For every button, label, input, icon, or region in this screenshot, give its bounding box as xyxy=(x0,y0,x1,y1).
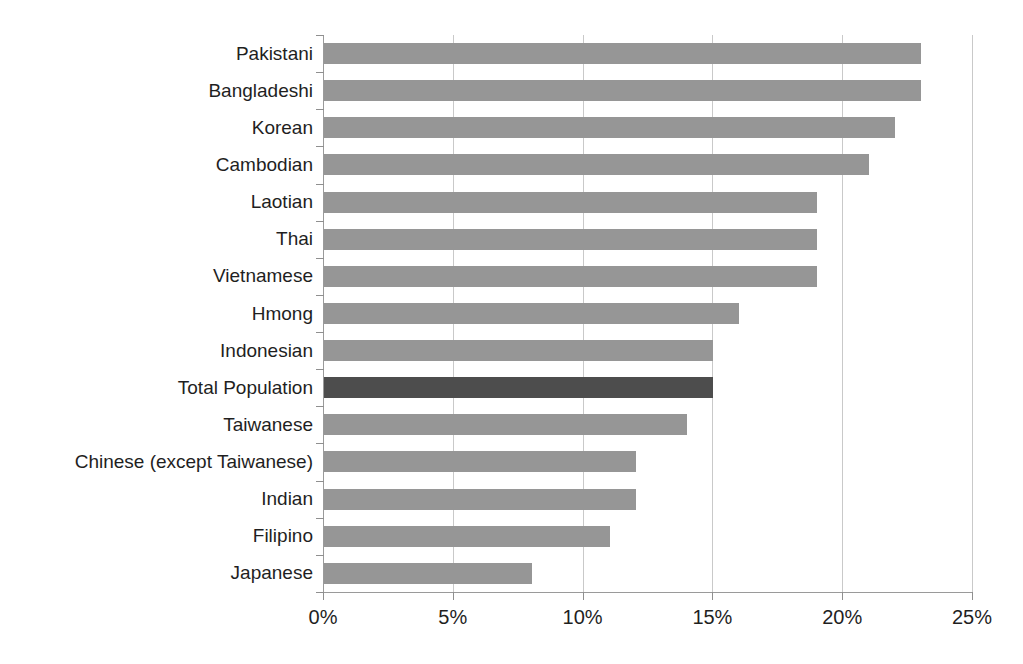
y-axis-label: Filipino xyxy=(3,526,313,545)
x-axis-label: 20% xyxy=(797,605,887,629)
bar-chart: Percent Uninsured in the United States P… xyxy=(0,0,1023,664)
y-axis-tick xyxy=(316,35,324,36)
y-axis-tick xyxy=(316,72,324,73)
x-axis-tick xyxy=(842,592,843,600)
y-axis-label: Japanese xyxy=(3,563,313,582)
bar xyxy=(324,229,817,250)
bar xyxy=(324,80,921,101)
gridline xyxy=(972,35,973,592)
y-axis-label: Cambodian xyxy=(3,155,313,174)
x-axis-tick xyxy=(712,592,713,600)
bar xyxy=(324,526,610,547)
bar xyxy=(324,266,817,287)
y-axis-tick xyxy=(316,332,324,333)
x-axis-tick xyxy=(583,592,584,600)
x-axis-labels: 0%5%10%15%20%25% xyxy=(0,605,1023,635)
bar xyxy=(324,563,532,584)
y-axis-label: Hmong xyxy=(3,304,313,323)
y-axis-label: Total Population xyxy=(3,378,313,397)
y-axis-tick xyxy=(316,184,324,185)
y-axis-label: Bangladeshi xyxy=(3,81,313,100)
x-axis-tick xyxy=(323,592,324,600)
bar xyxy=(324,154,869,175)
y-axis-tick xyxy=(316,369,324,370)
bar xyxy=(324,377,713,398)
y-axis-tick xyxy=(316,481,324,482)
y-axis-label: Pakistani xyxy=(3,44,313,63)
y-axis-tick xyxy=(316,258,324,259)
x-axis-line xyxy=(323,592,973,593)
y-axis-tick xyxy=(316,109,324,110)
x-axis-tick xyxy=(972,592,973,600)
y-axis-label: Thai xyxy=(3,229,313,248)
y-axis-label: Laotian xyxy=(3,192,313,211)
y-axis-tick xyxy=(316,518,324,519)
bar xyxy=(324,414,687,435)
y-axis-tick xyxy=(316,406,324,407)
x-axis-label: 25% xyxy=(927,605,1017,629)
y-axis-label: Taiwanese xyxy=(3,415,313,434)
bar xyxy=(324,451,636,472)
y-axis-label: Indonesian xyxy=(3,341,313,360)
bar xyxy=(324,117,895,138)
bar xyxy=(324,489,636,510)
x-axis-label: 0% xyxy=(278,605,368,629)
y-axis-labels: PakistaniBangladeshiKoreanCambodianLaoti… xyxy=(0,35,313,592)
x-axis-tick xyxy=(453,592,454,600)
y-axis-tick xyxy=(316,555,324,556)
y-axis-tick xyxy=(316,295,324,296)
y-axis-label: Vietnamese xyxy=(3,266,313,285)
y-axis-label: Chinese (except Taiwanese) xyxy=(3,452,313,471)
x-axis-label: 10% xyxy=(538,605,628,629)
x-axis-label: 15% xyxy=(667,605,757,629)
plot-area xyxy=(323,35,972,592)
y-axis-tick xyxy=(316,443,324,444)
y-axis-label: Indian xyxy=(3,489,313,508)
x-axis-label: 5% xyxy=(408,605,498,629)
bar xyxy=(324,340,713,361)
bar xyxy=(324,43,921,64)
y-axis-tick xyxy=(316,146,324,147)
y-axis-label: Korean xyxy=(3,118,313,137)
y-axis-tick xyxy=(316,221,324,222)
bar xyxy=(324,192,817,213)
bar xyxy=(324,303,739,324)
